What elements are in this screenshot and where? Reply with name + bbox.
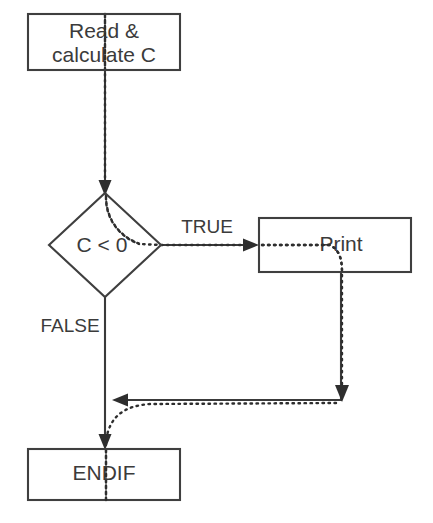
arrowhead-into-endif xyxy=(99,434,112,450)
node-endif[interactable]: ENDIF xyxy=(28,449,180,500)
edge-label-false: FALSE xyxy=(40,315,99,336)
node-endif-label: ENDIF xyxy=(73,461,136,484)
edge-label-true: TRUE xyxy=(181,216,233,237)
edge-line-print-to-merge xyxy=(122,272,341,400)
node-condition-label: C < 0 xyxy=(77,233,128,256)
trace-print-exit xyxy=(262,245,342,392)
trace-merge-to-endif xyxy=(106,403,336,500)
flowchart-canvas: Read & calculate C C < 0 Print ENDIF TRU… xyxy=(0,0,433,523)
arrowhead-merge-left xyxy=(112,394,128,407)
flowchart-svg: Read & calculate C C < 0 Print ENDIF TRU… xyxy=(0,0,433,523)
node-print-label: Print xyxy=(319,232,362,255)
edge-print-to-merge xyxy=(112,272,341,407)
